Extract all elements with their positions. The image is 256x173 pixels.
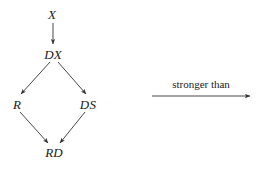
edge-r-to-rd bbox=[20, 112, 48, 143]
node-label-r: R bbox=[13, 97, 21, 113]
diagram-canvas: X DX R DS RD stronger than bbox=[0, 0, 256, 173]
edge-ds-to-rd bbox=[60, 112, 85, 143]
node-label-ds: DS bbox=[80, 97, 96, 113]
edge-dx-to-ds bbox=[58, 62, 86, 94]
legend-stronger-than-label: stronger than bbox=[172, 78, 230, 90]
edge-dx-to-r bbox=[21, 62, 50, 94]
node-label-dx: DX bbox=[44, 47, 62, 63]
node-label-x: X bbox=[48, 7, 56, 23]
node-label-rd: RD bbox=[45, 145, 63, 161]
